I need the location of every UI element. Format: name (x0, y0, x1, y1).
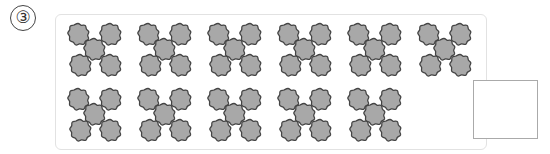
flower-icon (238, 118, 262, 142)
flower-icon (98, 118, 122, 142)
flower-icon (278, 118, 302, 142)
flower-icon (68, 118, 92, 142)
flower-icon (68, 53, 92, 77)
problem-number: ③ (10, 5, 36, 31)
flower-group (66, 87, 122, 143)
flower-group (346, 22, 402, 78)
flower-icon (418, 53, 442, 77)
flower-icon (308, 118, 332, 142)
flower-icon (448, 53, 472, 77)
flower-group (416, 22, 472, 78)
flower-icon (138, 53, 162, 77)
flower-icon (238, 53, 262, 77)
flower-icon (348, 118, 372, 142)
flower-group (136, 22, 192, 78)
flower-icon (98, 53, 122, 77)
flower-icon (168, 53, 192, 77)
flower-icon (208, 118, 232, 142)
flower-group (276, 22, 332, 78)
flower-icon (378, 118, 402, 142)
flower-group (206, 22, 262, 78)
flower-icon (308, 53, 332, 77)
flower-icon (208, 53, 232, 77)
flower-icon (378, 53, 402, 77)
flower-group (66, 22, 122, 78)
flower-icon (348, 53, 372, 77)
flower-icon (278, 53, 302, 77)
answer-input-box[interactable] (473, 80, 538, 139)
flower-icon (138, 118, 162, 142)
flower-group (136, 87, 192, 143)
flower-group (346, 87, 402, 143)
flower-group (276, 87, 332, 143)
flower-group (206, 87, 262, 143)
flower-icon (168, 118, 192, 142)
